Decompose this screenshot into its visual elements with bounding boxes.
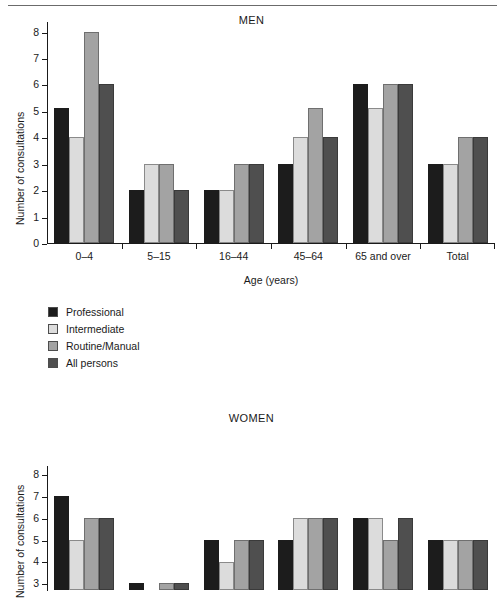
bar: [99, 84, 114, 243]
legend-swatch-intermediate: [48, 324, 58, 334]
bar: [159, 583, 174, 590]
x-tick-mark: [346, 244, 347, 249]
bar: [219, 562, 234, 591]
legend-label-professional: Professional: [66, 306, 124, 318]
bar-group: 45–64: [278, 21, 338, 243]
bar-group: [204, 465, 264, 590]
y-tick-label: 5: [33, 105, 39, 118]
bar: [458, 137, 473, 243]
legend-swatch-professional: [48, 307, 58, 317]
y-tick-label: 5: [33, 534, 39, 547]
x-category-label: 0–4: [76, 250, 94, 262]
bar: [159, 164, 174, 243]
bar-group: 5–15: [129, 21, 189, 243]
bar: [443, 164, 458, 243]
bar: [129, 190, 144, 243]
bar: [129, 583, 144, 590]
y-tick-mark: [42, 497, 47, 498]
y-tick-label: 3: [33, 158, 39, 171]
legend-item-all: All persons: [48, 354, 140, 371]
y-tick-mark: [42, 112, 47, 113]
plot-area-women: 345678: [47, 466, 495, 591]
bar: [84, 32, 99, 243]
bar: [308, 518, 323, 590]
y-tick-label: 8: [33, 26, 39, 39]
y-tick-label: 4: [33, 555, 39, 568]
bar: [353, 84, 368, 243]
legend-label-intermediate: Intermediate: [66, 323, 124, 335]
legend-label-routine: Routine/Manual: [66, 340, 140, 352]
legend-item-intermediate: Intermediate: [48, 320, 140, 337]
legend-item-routine: Routine/Manual: [48, 337, 140, 354]
bar: [54, 496, 69, 590]
legend-item-professional: Professional: [48, 303, 140, 320]
bar: [308, 108, 323, 243]
bar-group: [54, 465, 114, 590]
bar: [249, 540, 264, 590]
y-axis-line-men: [47, 22, 48, 244]
plot-area-men: 0123456780–45–1516–4445–6465 and overTot…: [47, 22, 495, 244]
bar-group: [428, 465, 488, 590]
y-axis-title-women: Number of consultations: [14, 485, 26, 598]
bar: [84, 518, 99, 590]
y-tick-label: 1: [33, 211, 39, 224]
y-axis-title-men: Number of consultations: [14, 112, 26, 225]
y-tick-mark: [42, 475, 47, 476]
bar: [278, 540, 293, 590]
bar: [174, 190, 189, 243]
y-tick-label: 8: [33, 468, 39, 481]
x-category-label: 45–64: [294, 250, 323, 262]
x-category-label: 16–44: [219, 250, 248, 262]
bar: [368, 108, 383, 243]
bar: [323, 518, 338, 590]
y-axis-line-women: [47, 466, 48, 591]
chart-title-women: WOMEN: [0, 412, 503, 424]
y-tick-label: 7: [33, 490, 39, 503]
bar-group: 65 and over: [353, 21, 413, 243]
chart-panel-men: MEN Number of consultations 0123456780–4…: [0, 12, 503, 280]
bar: [249, 164, 264, 243]
bar-group: 16–44: [204, 21, 264, 243]
bar: [323, 137, 338, 243]
bar: [99, 518, 114, 590]
y-tick-label: 2: [33, 184, 39, 197]
y-tick-mark: [42, 244, 47, 245]
header-rule: [8, 5, 497, 6]
bar: [473, 540, 488, 590]
x-tick-mark: [271, 244, 272, 249]
y-tick-mark: [42, 59, 47, 60]
y-tick-mark: [42, 519, 47, 520]
y-tick-mark: [42, 33, 47, 34]
y-tick-mark: [42, 85, 47, 86]
bar: [368, 518, 383, 590]
y-tick-label: 6: [33, 512, 39, 525]
bar: [204, 540, 219, 590]
y-tick-mark: [42, 218, 47, 219]
y-tick-mark: [42, 165, 47, 166]
y-tick-label: 4: [33, 131, 39, 144]
bar: [473, 137, 488, 243]
x-category-label: 5–15: [147, 250, 170, 262]
bar: [69, 540, 84, 590]
x-tick-mark: [494, 244, 495, 249]
bar: [234, 164, 249, 243]
x-tick-mark: [122, 244, 123, 249]
bar: [144, 164, 159, 243]
chart-panel-women: WOMEN Number of consultations 345678: [0, 410, 503, 591]
bar: [383, 540, 398, 590]
bar: [234, 540, 249, 590]
bar: [69, 137, 84, 243]
bar: [204, 190, 219, 243]
y-tick-mark: [42, 562, 47, 563]
bar: [174, 583, 189, 590]
x-axis-title-men: Age (years): [47, 274, 495, 286]
bar: [428, 540, 443, 590]
bar-group: [129, 465, 189, 590]
y-tick-label: 0: [33, 237, 39, 250]
x-tick-mark: [420, 244, 421, 249]
y-tick-label: 3: [33, 577, 39, 590]
bar: [398, 518, 413, 590]
bar: [428, 164, 443, 243]
bar: [398, 84, 413, 243]
bar: [219, 190, 234, 243]
